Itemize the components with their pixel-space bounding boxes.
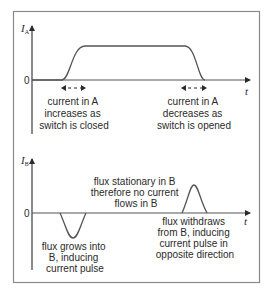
annotation-flux-grows: flux grows into B, inducing current puls… <box>42 241 109 274</box>
bottom-x-label: t <box>244 215 248 227</box>
bottom-zero-label: 0 <box>24 208 30 219</box>
top-graph: IA 0 t current in A increases as switch … <box>20 22 250 134</box>
current-a-curve <box>32 46 205 80</box>
positive-current-pulse <box>182 185 207 213</box>
induction-diagram: IA 0 t current in A increases as switch … <box>0 0 272 293</box>
annotation-current-decreases: current in A decreases as switch is open… <box>157 96 231 131</box>
top-x-label: t <box>245 85 249 97</box>
top-y-label: IA <box>20 22 30 35</box>
top-zero-label: 0 <box>24 75 30 86</box>
annotation-flux-withdraws: flux withdraws from B, inducing current … <box>156 216 234 260</box>
annotation-flux-stationary: flux stationary in B therefore no curren… <box>91 176 182 209</box>
bottom-graph: IB 0 t flux grows into B, inducing curre… <box>20 154 250 274</box>
annotation-current-increases: current in A increases as switch is clos… <box>39 96 108 131</box>
negative-current-pulse <box>60 213 86 238</box>
bottom-y-label: IB <box>20 154 29 167</box>
